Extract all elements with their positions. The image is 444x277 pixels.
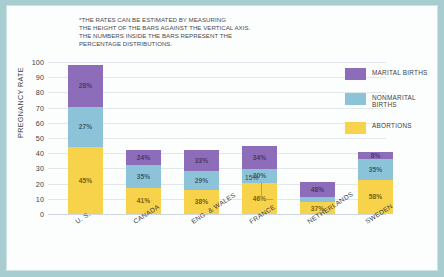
callout-label: 15%	[245, 174, 259, 181]
bar-segment-nonmarital: 27%	[68, 107, 103, 147]
bar-segment-abortions: 45%	[68, 147, 103, 214]
bar-segment-marital: 33%	[184, 150, 219, 171]
bar-segment-nonmarital: 35%	[358, 159, 393, 180]
y-axis-tick: 10	[36, 194, 44, 203]
legend-item-marital[interactable]: MARITAL BIRTHS	[345, 68, 443, 80]
bar-segment-marital: 28%	[68, 65, 103, 107]
y-axis-tick: 100	[32, 58, 44, 67]
legend-swatch-icon	[345, 122, 366, 134]
outer-frame: *THE RATES CAN BE ESTIMATED BY MEASURING…	[0, 0, 444, 277]
plot-area: 1009080706050403020100 28%27%45%24%35%41…	[48, 62, 386, 214]
chart-footnote: *THE RATES CAN BE ESTIMATED BY MEASURING…	[79, 16, 379, 48]
bar-segment-marital: 8%	[358, 152, 393, 159]
callout-leader-line	[261, 182, 273, 200]
legend-label: MARITAL BIRTHS	[372, 68, 428, 76]
y-axis-tick: 80	[36, 88, 44, 97]
bar-segment-nonmarital: 35%	[126, 165, 161, 187]
legend-item-nonmarital[interactable]: NONMARITAL BIRTHS	[345, 93, 443, 109]
y-axis-tick: 0	[40, 210, 44, 219]
legend-item-abortions[interactable]: ABORTIONS	[345, 122, 443, 134]
gridline: 100	[48, 62, 386, 63]
gridline: 0	[48, 214, 386, 215]
y-axis-tick: 20	[36, 179, 44, 188]
y-axis-tick: 40	[36, 149, 44, 158]
y-axis-tick: 90	[36, 73, 44, 82]
bar-segment-marital: 34%	[242, 146, 277, 169]
bar-segment-nonmarital: 29%	[184, 171, 219, 190]
legend-swatch-icon	[345, 93, 366, 105]
legend-label: ABORTIONS	[372, 122, 412, 130]
chart-card: *THE RATES CAN BE ESTIMATED BY MEASURING…	[7, 6, 437, 270]
legend-swatch-icon	[345, 68, 366, 80]
y-axis-tick: 70	[36, 103, 44, 112]
bar-u-s[interactable]: 28%27%45%	[68, 65, 103, 214]
legend-label: NONMARITAL BIRTHS	[372, 93, 416, 109]
bar-segment-marital: 48%	[300, 182, 335, 197]
y-axis-tick: 30	[36, 164, 44, 173]
y-axis-tick: 50	[36, 134, 44, 143]
bar-segment-marital: 24%	[126, 150, 161, 165]
y-axis-title: PREGNANCY RATE	[16, 67, 25, 138]
chart-legend: MARITAL BIRTHSNONMARITAL BIRTHSABORTIONS	[345, 68, 443, 147]
y-axis-tick: 60	[36, 118, 44, 127]
